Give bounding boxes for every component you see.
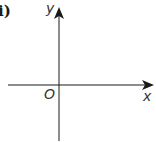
axes [0, 0, 156, 142]
origin-label: O [44, 86, 55, 102]
x-axis-label: x [143, 88, 151, 104]
y-axis-label: y [46, 0, 54, 16]
